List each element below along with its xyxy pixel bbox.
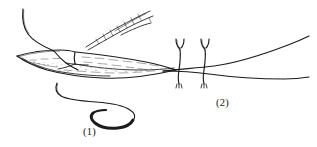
suture-knot-left: [176, 39, 184, 88]
suture-knot-right: [201, 39, 209, 88]
suture-tails-left: [176, 84, 182, 88]
suture-entry-stitch: [54, 51, 88, 70]
line-art-drawing: [0, 0, 317, 147]
figure-1-caption: (1): [83, 126, 96, 137]
suture-tails-right: [201, 84, 207, 88]
suture-thread-upper: [23, 9, 54, 51]
figure-1-group: [17, 9, 176, 128]
suture-thread-lower: [56, 83, 135, 120]
wound-edges: [163, 36, 309, 79]
figure-2-caption: (2): [216, 97, 229, 108]
figure-2-group: [163, 36, 309, 88]
instrument-tip: [86, 11, 153, 50]
curved-needle: [91, 110, 133, 128]
illustration-canvas: (1) (2): [0, 0, 317, 147]
tissue-bed-outline: [17, 56, 176, 78]
